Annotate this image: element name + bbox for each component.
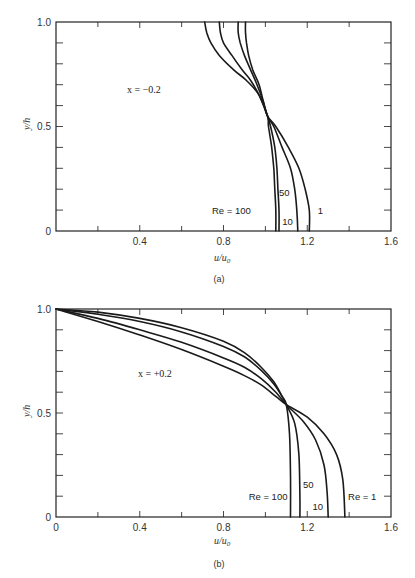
y-tick-label: 0 (45, 226, 51, 237)
series-label: 50 (279, 187, 290, 198)
axis-ticks (56, 22, 391, 231)
y-tick-label: 1.0 (37, 304, 51, 315)
y-axis-label: y/h (21, 118, 32, 131)
plot-frame (56, 22, 391, 231)
x-tick-label: 0.4 (133, 522, 147, 533)
figure: 0.40.81.21.600.51.0 x = −0.2 Re = 100501… (0, 0, 415, 578)
y-tick-label: 1.0 (37, 17, 51, 28)
velocity-profile-curves (205, 22, 310, 231)
profile-curve-1 (245, 22, 309, 231)
plot-frame (56, 309, 391, 517)
x-position-annotation: x = −0.2 (127, 84, 161, 95)
x-tick-label: 0.4 (133, 236, 147, 247)
profile-curve-50 (56, 309, 300, 517)
series-label: 10 (282, 216, 293, 227)
x-tick-label: 1.2 (300, 522, 314, 533)
y-axis-label: y/h (21, 405, 32, 418)
chart-panel-b: 00.40.81.21.600.51.0 x = +0.2 Re = 10050… (21, 304, 398, 570)
panel-caption: (a) (214, 274, 225, 284)
x-tick-label: 0.8 (217, 522, 231, 533)
x-position-annotation: x = +0.2 (138, 368, 172, 379)
series-label: 10 (312, 501, 323, 512)
x-tick-label: 1.6 (384, 522, 398, 533)
series-label: Re = 100 (212, 205, 251, 216)
series-label: Re = 100 (249, 491, 288, 502)
series-label: 50 (303, 479, 314, 490)
y-tick-label: 0.5 (37, 408, 51, 419)
series-label: Re = 1 (348, 491, 376, 502)
profile-curve-50 (219, 22, 279, 231)
x-tick-label: 1.6 (384, 236, 398, 247)
series-labels: Re = 1005010Re = 1 (249, 479, 377, 512)
x-axis-label: u/u0 (214, 252, 231, 265)
x-tick-label: 0.8 (217, 236, 231, 247)
x-tick-label: 1.2 (300, 236, 314, 247)
profile-curve-100 (205, 22, 276, 231)
axis-ticks (56, 309, 391, 517)
velocity-profile-curves (56, 309, 345, 517)
x-tick-label: 0 (53, 522, 59, 533)
y-tick-label: 0 (45, 512, 51, 523)
series-label: 1 (318, 205, 323, 216)
profile-curve-1 (56, 309, 345, 517)
chart-panel-a: 0.40.81.21.600.51.0 x = −0.2 Re = 100501… (21, 17, 398, 285)
panel-caption: (b) (214, 559, 225, 569)
x-axis-label: u/u0 (214, 535, 231, 548)
y-tick-label: 0.5 (37, 121, 51, 132)
